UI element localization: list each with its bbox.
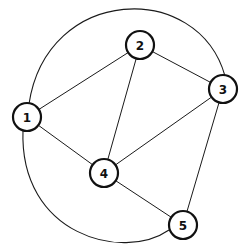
- edge-3-5: [183, 89, 223, 225]
- node-3: 3: [209, 75, 237, 103]
- node-label: 3: [219, 83, 227, 97]
- edge-3-4: [104, 89, 223, 173]
- node-label: 5: [179, 219, 187, 233]
- node-label: 2: [136, 39, 144, 53]
- edges: [23, 9, 225, 243]
- node-2: 2: [126, 31, 154, 59]
- edge-1-5-curved: [23, 130, 169, 243]
- node-label: 4: [100, 167, 108, 181]
- node-1: 1: [13, 103, 41, 131]
- node-label: 1: [23, 111, 31, 125]
- graph-diagram: 1 2 3 4 5: [0, 0, 251, 251]
- node-5: 5: [169, 211, 197, 239]
- node-4: 4: [90, 159, 118, 187]
